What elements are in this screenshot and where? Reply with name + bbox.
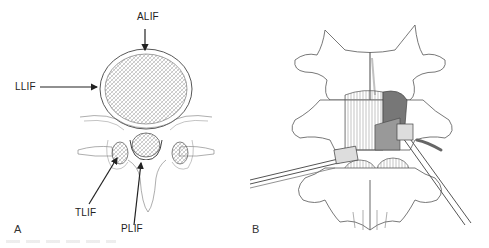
llif-label: LLIF (15, 81, 36, 92)
alif-label: ALIF (137, 11, 159, 22)
panel-a: ALIF LLIF TLIF PLIF A (0, 0, 245, 248)
vertebral-body-cancellous (105, 54, 187, 124)
panel-letter-a: A (14, 223, 21, 235)
figure: ALIF LLIF TLIF PLIF A (0, 0, 489, 248)
tlif-label: TLIF (75, 207, 96, 218)
axial-vertebra-illustration (0, 0, 245, 248)
left-facet (112, 142, 128, 164)
plif-label: PLIF (121, 223, 143, 234)
panel-letter-b: B (252, 223, 259, 235)
spinal-cord (132, 133, 160, 157)
panel-b: B (245, 0, 489, 248)
plif-arrow (134, 163, 141, 225)
tlif-arrow (89, 158, 117, 204)
faint-caption-remnant (6, 240, 116, 243)
right-facet (172, 142, 188, 164)
posterior-spine-illustration (245, 0, 489, 248)
spinous-process (128, 160, 166, 212)
